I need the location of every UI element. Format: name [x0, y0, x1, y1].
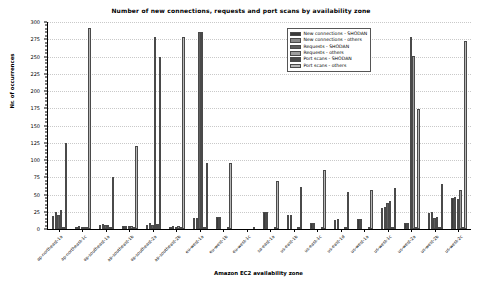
x-tick-mark [106, 229, 107, 232]
bar-group [75, 22, 91, 229]
bar [464, 41, 466, 229]
legend-swatch [290, 64, 301, 69]
bar [459, 190, 461, 229]
chart-title: Number of new connections, requests and … [0, 7, 482, 14]
x-tick-mark [458, 229, 459, 232]
legend-label: New connections - SHODAN [304, 32, 368, 37]
y-tick-label: 0 [37, 226, 40, 232]
bar [276, 181, 278, 229]
bar-group [240, 22, 256, 229]
x-tick-mark [247, 229, 248, 232]
x-tick-mark [270, 229, 271, 232]
bar [360, 219, 362, 229]
y-axis: 0255075100125150175200225250275300 [0, 22, 47, 229]
bar [323, 170, 325, 229]
legend-label: Port scans - SHODAN [304, 57, 352, 62]
bar [394, 188, 396, 229]
x-tick-mark [411, 229, 412, 232]
legend-label: Port scans - others [304, 64, 347, 69]
chart-figure: Number of new connections, requests and … [0, 0, 482, 288]
bar-group [451, 22, 467, 229]
legend-label: New connections - others [304, 38, 362, 43]
x-tick-mark [129, 229, 130, 232]
x-tick-mark [435, 229, 436, 232]
x-tick-mark [294, 229, 295, 232]
x-tick-mark [59, 229, 60, 232]
x-tick-mark [176, 229, 177, 232]
y-tick-label: 175 [30, 105, 40, 111]
x-tick-label: us-east-1d [326, 234, 346, 254]
legend-swatch [290, 51, 301, 56]
bar [337, 219, 339, 229]
x-tick-label: us-west-2a [396, 234, 416, 254]
bar [201, 32, 203, 229]
x-tick-mark [200, 229, 201, 232]
x-tick-mark [82, 229, 83, 232]
x-tick-label: us-west-2c [443, 234, 463, 254]
y-tick-label: 150 [30, 123, 40, 129]
bar-group [146, 22, 162, 229]
bar-group [263, 22, 279, 229]
bar-group [216, 22, 232, 229]
bar [159, 57, 161, 229]
y-tick-label: 75 [34, 174, 40, 180]
x-tick-mark [341, 229, 342, 232]
bar [290, 215, 292, 229]
y-tick-label: 200 [30, 88, 40, 94]
bar [266, 212, 268, 229]
x-tick-label: us-west-2b [420, 234, 440, 254]
bar [389, 201, 391, 229]
bar [300, 187, 302, 229]
legend-swatch [290, 45, 301, 50]
legend-label: Requests - SHODAN [304, 45, 350, 50]
x-tick-mark [223, 229, 224, 232]
bar-group [52, 22, 68, 229]
legend-swatch [290, 38, 301, 43]
bar [347, 192, 349, 229]
bar-group [99, 22, 115, 229]
y-tick-label: 225 [30, 71, 40, 77]
bar [112, 177, 114, 229]
x-tick-mark [317, 229, 318, 232]
bar [206, 163, 208, 229]
y-tick-label: 125 [30, 140, 40, 146]
x-tick-label: us-west-1c [373, 234, 393, 254]
bar [370, 190, 372, 229]
legend-swatch [290, 57, 301, 62]
bar [417, 109, 419, 229]
x-tick-mark [364, 229, 365, 232]
y-tick-label: 100 [30, 157, 40, 163]
y-tick-label: 275 [30, 36, 40, 42]
bar-group [193, 22, 209, 229]
x-tick-mark [153, 229, 154, 232]
legend-label: Requests - others [304, 51, 344, 56]
bar [441, 184, 443, 229]
x-axis-label: Amazon EC2 availability zone [47, 270, 470, 276]
y-tick-label: 25 [34, 209, 40, 215]
legend-swatch [290, 32, 301, 37]
bar [135, 146, 137, 229]
bar [229, 163, 231, 229]
bar [65, 143, 67, 229]
bar [88, 28, 90, 229]
y-tick-label: 50 [34, 192, 40, 198]
legend-item: Port scans - others [290, 63, 367, 69]
bar-group [169, 22, 185, 229]
bar-group [122, 22, 138, 229]
bar-group [404, 22, 420, 229]
x-tick-label: eu-west-1a [184, 234, 204, 254]
x-tick-label: eu-west-1b [208, 234, 229, 255]
plot-area [47, 22, 471, 230]
x-tick-label: ap-southeast-2b [153, 234, 181, 262]
x-tick-label: us-east-1c [303, 234, 322, 253]
y-tick-label: 300 [30, 19, 40, 25]
bar [219, 217, 221, 229]
bar [412, 56, 414, 229]
bar [182, 37, 184, 230]
chart-legend: New connections - SHODANNew connections … [287, 28, 371, 72]
x-tick-label: us-west-1a [349, 234, 369, 254]
bar-group [428, 22, 444, 229]
y-axis-label: Nr. of occurrences [9, 21, 15, 141]
x-tick-label: sa-east-1a [256, 234, 275, 253]
bar [154, 37, 156, 230]
